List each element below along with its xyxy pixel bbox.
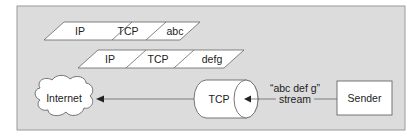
packet-2: IP TCP defg <box>78 50 244 68</box>
packet-2-segment-tcp: TCP <box>148 53 169 65</box>
packet-1-segment-tcp: TCP <box>118 25 139 37</box>
packet-2-segment-data: defg <box>202 53 223 65</box>
packet-1: IP TCP abc <box>44 22 200 40</box>
diagram-canvas: IP TCP abc IP TCP defg Internet TCP “abc… <box>0 0 417 138</box>
packet-1-segment-ip: IP <box>75 25 85 37</box>
packet-2-segment-ip: IP <box>105 53 115 65</box>
sender-label: Sender <box>348 92 382 104</box>
stream-label: stream <box>279 93 311 105</box>
sender-box: Sender <box>337 81 392 115</box>
tcp-label: TCP <box>209 93 230 105</box>
tcp-cylinder: TCP <box>194 80 258 118</box>
internet-label: Internet <box>46 92 82 104</box>
packet-1-segment-data: abc <box>167 25 184 37</box>
